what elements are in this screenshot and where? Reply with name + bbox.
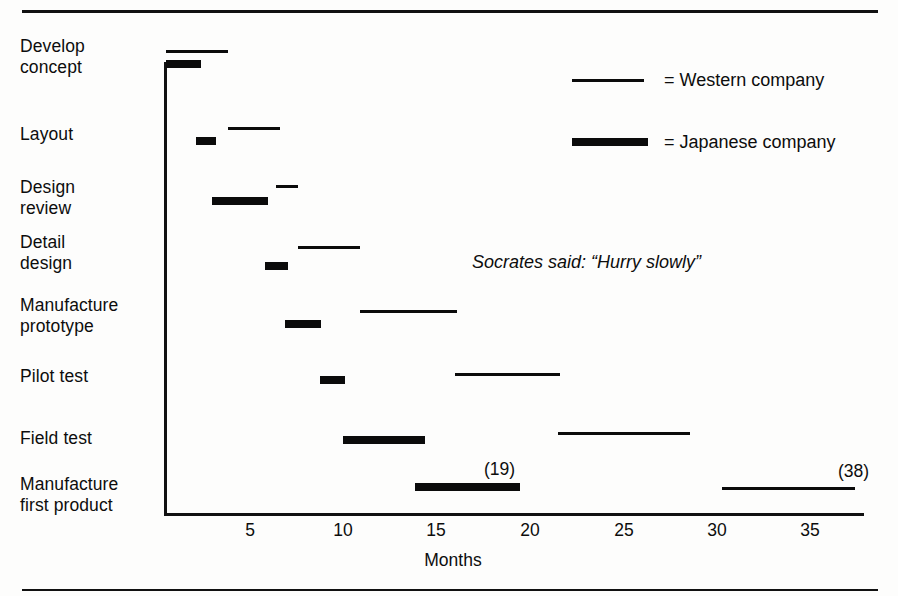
x-tick-35: 35 [788,520,832,541]
bar-western-manufacture-prototype [360,310,457,313]
x-tick-10: 10 [321,520,365,541]
bar-western-detail-design [298,246,360,249]
x-tick-5: 5 [228,520,272,541]
row-label-design-review: Design review [20,177,165,219]
socrates-annotation: Socrates said: “Hurry slowly” [472,251,701,273]
top-rule [22,10,878,13]
row-label-manufacture-prototype: Manufacture prototype [20,295,165,337]
row-label-field-test: Field test [20,428,165,449]
row-label-develop-concept: Develop concept [20,36,165,78]
row-label-pilot-test: Pilot test [20,366,165,387]
bar-western-design-review [276,185,298,188]
x-axis-title: Months [0,549,898,571]
legend-item-western: = Western company [572,69,872,91]
row-label-layout: Layout [20,124,165,145]
legend-swatch-western-line-icon [572,79,644,82]
row-label-manufacture-first-product: Manufacture first product [20,474,165,516]
bar-japanese-field-test [343,436,425,444]
x-tick-25: 25 [602,520,646,541]
bar-japanese-manufacture-first-product [415,483,520,491]
x-tick-15: 15 [414,520,458,541]
bar-japanese-layout [196,137,216,145]
legend-swatch-japanese-bar-icon [572,138,648,146]
legend-label-japanese: = Japanese company [664,131,836,153]
bar-japanese-manufacture-prototype [285,320,321,328]
x-tick-30: 30 [695,520,739,541]
bar-japanese-pilot-test [320,376,345,384]
bar-value-western-38: (38) [838,461,869,481]
bottom-rule [22,589,878,591]
row-label-detail-design: Detail design [20,232,165,274]
bar-japanese-design-review [212,197,268,205]
bar-western-manufacture-first-product [722,487,855,490]
bar-western-pilot-test [455,373,560,376]
x-axis-title-text: Months [424,550,481,570]
bar-japanese-develop-concept [166,60,201,68]
bar-western-layout [228,127,280,130]
bar-value-japanese-19: (19) [484,459,515,479]
x-axis-line [164,513,864,516]
x-tick-20: 20 [508,520,552,541]
gantt-chart-figure: Develop concept Layout Design review Det… [0,0,898,596]
legend-label-western: = Western company [664,69,824,91]
bar-japanese-detail-design [265,262,288,270]
bar-western-develop-concept [166,50,228,53]
legend-item-japanese: = Japanese company [572,131,872,153]
bar-western-field-test [558,432,690,435]
